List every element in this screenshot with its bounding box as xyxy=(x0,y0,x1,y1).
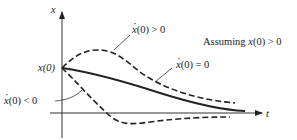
label-zero-velocity: x(0) = 0 xyxy=(176,60,209,71)
label-positive-velocity: x(0) > 0 xyxy=(132,25,165,36)
assumption-note: Assuming x(0) > 0 xyxy=(203,37,282,48)
label-negative-velocity: x(0) < 0 xyxy=(4,96,37,107)
leader-positive xyxy=(114,35,130,50)
leader-zero xyxy=(155,68,172,82)
curve-negative-velocity xyxy=(62,68,230,124)
curve-zero-velocity xyxy=(62,68,245,111)
vertical-axis-label: x xyxy=(51,5,56,16)
horizontal-axis-label: t xyxy=(266,109,269,120)
origin-value-label: x(0) xyxy=(38,63,55,74)
leader-negative xyxy=(55,90,82,101)
